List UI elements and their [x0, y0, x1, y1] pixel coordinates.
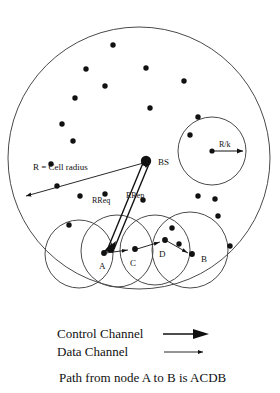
mobile-node [72, 95, 77, 100]
figure-caption: Path from node A to B is ACDB [59, 370, 227, 385]
mobile-node [195, 193, 200, 198]
mobile-node [77, 193, 82, 198]
node-c-label: C [130, 258, 136, 268]
mobile-node [59, 121, 64, 126]
legend: Control Channel Data Channel [57, 326, 209, 359]
mobile-node [147, 105, 152, 110]
network-diagram: R = Cell radius R/k [0, 0, 280, 393]
route-node-a [101, 250, 107, 256]
route-node-b [189, 251, 195, 257]
cluster-center-node [209, 148, 214, 153]
mobile-node [212, 196, 217, 201]
node-a-label: A [99, 261, 106, 271]
route-node-d [162, 237, 168, 243]
mobile-node [187, 132, 192, 137]
base-station-node [141, 156, 151, 166]
mobile-node [169, 225, 174, 230]
mobile-node [83, 66, 88, 71]
cluster-radius-label: R/k [219, 140, 231, 149]
mobile-node [110, 42, 115, 47]
mobile-node [102, 83, 107, 88]
base-station-label: BS [158, 157, 169, 167]
legend-label-control-channel: Control Channel [57, 326, 144, 341]
mobile-node [215, 213, 220, 218]
rrep-label: RRep [126, 191, 144, 200]
coverage-circle-d [120, 215, 190, 285]
figure-container: R = Cell radius R/k [0, 0, 280, 393]
cell-boundary-circle [8, 27, 270, 289]
data-path-links [106, 241, 188, 253]
legend-label-data-channel: Data Channel [57, 344, 129, 359]
rreq-control-link [108, 163, 143, 248]
node-b-label: B [201, 254, 207, 264]
rreq-label: RReq [92, 196, 110, 205]
mobile-node [176, 241, 181, 246]
mobile-node [54, 183, 59, 188]
mobile-node [227, 243, 232, 248]
mobile-node [195, 114, 200, 119]
mobile-node [70, 138, 75, 143]
data-link-c-d [137, 242, 160, 249]
node-d-label: D [159, 249, 166, 259]
cell-radius-label: R = Cell radius [33, 162, 88, 172]
mobile-node [181, 78, 186, 83]
legend-control-channel-arrowhead [193, 329, 209, 339]
route-node-c [132, 246, 138, 252]
mobile-node [143, 65, 148, 70]
mobile-node [66, 222, 71, 227]
rrep-control-link [114, 164, 149, 249]
mobile-node [48, 161, 53, 166]
